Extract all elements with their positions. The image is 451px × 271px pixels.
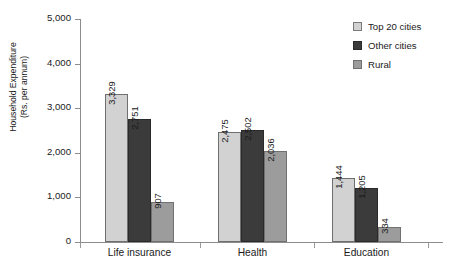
y-axis-tick-label: 5,000 [47,12,71,23]
legend-label-rural: Rural [368,59,391,70]
y-axis-tick: 1,000 [75,197,80,198]
y-axis-tick: 5,000 [75,19,80,20]
y-axis-title-line-2: (Rs. per annum) [19,0,30,182]
y-axis-line [80,19,81,243]
bar: 2,036 [264,151,287,242]
y-axis-title-line-1: Household Expenditure [8,0,19,182]
bar: 3,329 [105,94,128,242]
legend-swatch-rural [353,60,362,69]
bar-value-label: 2,475 [219,119,230,142]
x-axis-tick [314,243,315,248]
x-axis-category-label: Education [307,247,427,258]
legend-label-top-20-cities: Top 20 cities [368,21,421,32]
y-axis-tick: 3,000 [75,108,80,109]
legend-label-other-cities: Other cities [368,40,417,51]
grouped-bar-chart: Household Expenditure (Rs. per annum) 01… [0,0,451,271]
y-axis-tick-label: 3,000 [47,101,71,112]
legend-item: Other cities [353,36,421,55]
x-axis-category-label: Life insurance [80,247,200,258]
legend-swatch-top-20-cities [353,22,362,31]
bar: 2,751 [128,119,151,242]
bar-value-label: 2,036 [265,138,276,161]
x-axis-tick [200,243,201,248]
y-axis-tick-label: 0 [66,235,71,246]
bar: 334 [378,227,401,242]
y-axis-tick-label: 1,000 [47,190,71,201]
bar: 1,444 [332,178,355,242]
y-axis-tick-label: 4,000 [47,57,71,68]
bar-value-label: 1,205 [356,176,367,199]
legend-item: Rural [353,55,421,74]
x-axis-tick [428,243,429,248]
bar-value-label: 1,444 [333,165,344,188]
x-axis-tick [80,243,81,248]
bar: 2,502 [241,130,264,242]
y-axis-tick: 4,000 [75,64,80,65]
y-axis-tick: 2,000 [75,153,80,154]
bar-value-label: 3,329 [106,81,117,104]
legend-swatch-other-cities [353,41,362,50]
bar-value-label: 334 [379,218,390,234]
chart-legend: Top 20 cities Other cities Rural [353,17,421,74]
bar-value-label: 2,751 [129,107,140,130]
y-axis-tick-label: 2,000 [47,146,71,157]
bar-value-label: 907 [152,193,163,209]
bar-value-label: 2,502 [242,118,253,141]
legend-item: Top 20 cities [353,17,421,36]
y-axis-title: Household Expenditure (Rs. per annum) [8,0,30,182]
bar: 2,475 [218,132,241,242]
bar: 907 [151,202,174,242]
bar: 1,205 [355,188,378,242]
x-axis-category-label: Health [193,247,313,258]
x-axis-line [80,242,443,243]
